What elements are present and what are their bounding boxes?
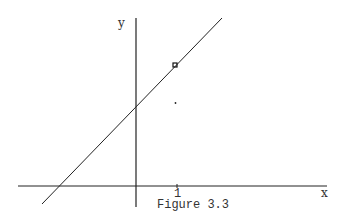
plotted-line [42,18,222,204]
x-axis-label: x [321,186,328,200]
y-axis-label: y [117,16,125,30]
figure-canvas: y x 1 Figure 3.3 [0,0,343,222]
point-dot [175,102,177,104]
figure-caption: Figure 3.3 [157,198,229,212]
